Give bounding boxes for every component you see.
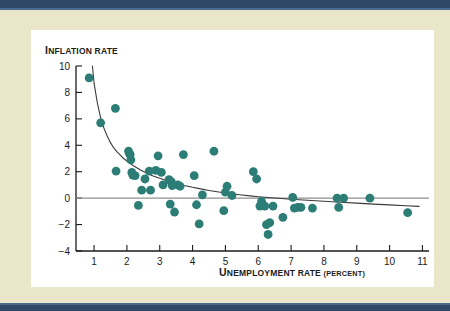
data-points bbox=[85, 73, 412, 238]
x-tick-label: 6 bbox=[255, 256, 261, 267]
data-point bbox=[170, 208, 179, 217]
y-tick-label: 8 bbox=[64, 87, 70, 98]
data-point bbox=[339, 194, 348, 203]
x-tick-label: 10 bbox=[384, 256, 396, 267]
x-tick-label: 8 bbox=[321, 256, 327, 267]
data-point bbox=[223, 182, 232, 191]
data-point bbox=[228, 191, 237, 200]
data-point bbox=[260, 202, 269, 211]
data-point bbox=[288, 193, 297, 202]
x-tick-label: 9 bbox=[354, 256, 360, 267]
data-point bbox=[190, 171, 199, 180]
y-tick-label: 10 bbox=[59, 61, 71, 72]
data-point bbox=[157, 168, 166, 177]
data-point bbox=[131, 171, 140, 180]
data-point bbox=[334, 203, 343, 212]
data-point bbox=[176, 182, 185, 191]
x-tick-label: 11 bbox=[417, 256, 428, 267]
data-point bbox=[179, 150, 188, 159]
data-point bbox=[112, 167, 121, 176]
bottom-border-bar bbox=[0, 305, 450, 311]
fitted-curve bbox=[92, 66, 419, 206]
data-point bbox=[403, 208, 412, 217]
data-point bbox=[265, 218, 274, 227]
x-tick-label: 3 bbox=[157, 256, 163, 267]
screenshot-page: INFLATION RATE UNEMPLOYMENT RATE (PERCEN… bbox=[0, 0, 450, 311]
x-tick-label: 4 bbox=[190, 256, 196, 267]
data-point bbox=[252, 175, 261, 184]
data-point bbox=[210, 147, 219, 156]
x-tick-label: 1 bbox=[91, 256, 97, 267]
data-point bbox=[195, 220, 204, 229]
data-point bbox=[192, 200, 201, 209]
data-point bbox=[154, 151, 163, 160]
data-point bbox=[278, 213, 287, 222]
x-axis: 1234567891011 bbox=[76, 245, 429, 267]
data-point bbox=[219, 206, 228, 215]
x-tick-label: 7 bbox=[288, 256, 294, 267]
data-point bbox=[198, 190, 207, 199]
data-point bbox=[96, 118, 105, 127]
data-point bbox=[134, 201, 143, 210]
data-point bbox=[264, 230, 273, 239]
data-point bbox=[126, 155, 135, 164]
data-point bbox=[308, 204, 317, 213]
scatter-plot: −4−20246810 1234567891011 bbox=[31, 30, 434, 287]
data-point bbox=[111, 104, 120, 113]
data-point bbox=[297, 203, 306, 212]
data-point bbox=[365, 194, 374, 203]
chart-card: INFLATION RATE UNEMPLOYMENT RATE (PERCEN… bbox=[31, 30, 434, 287]
y-tick-label: 2 bbox=[64, 166, 70, 177]
data-point bbox=[141, 175, 150, 184]
y-tick-label: 4 bbox=[64, 140, 70, 151]
x-tick-label: 2 bbox=[124, 256, 130, 267]
data-point bbox=[85, 73, 94, 82]
y-tick-label: −2 bbox=[59, 219, 71, 230]
y-axis: −4−20246810 bbox=[59, 61, 82, 257]
top-border-highlight bbox=[0, 8, 450, 10]
x-tick-label: 5 bbox=[223, 256, 229, 267]
y-tick-label: 0 bbox=[64, 193, 70, 204]
data-point bbox=[269, 202, 278, 211]
data-point bbox=[137, 186, 146, 195]
data-point bbox=[146, 186, 155, 195]
data-point bbox=[166, 200, 175, 209]
y-tick-label: 6 bbox=[64, 113, 70, 124]
y-tick-label: −4 bbox=[59, 246, 71, 257]
